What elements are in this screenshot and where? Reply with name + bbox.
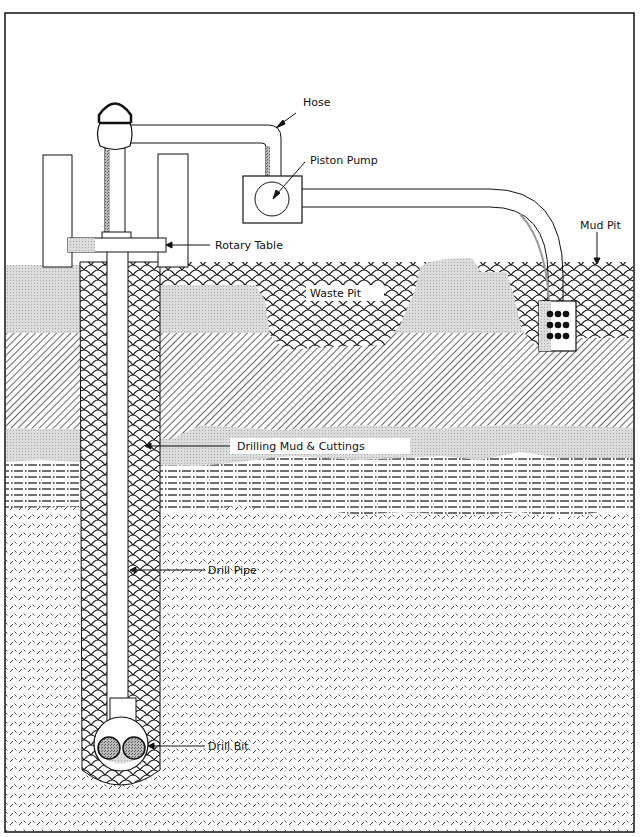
mud-surface-band <box>155 262 633 272</box>
label-drill-pipe: Drill Pipe <box>208 564 257 577</box>
label-mud-pit: Mud Pit <box>580 219 621 232</box>
label-waste-pit: Waste Pit <box>310 287 362 300</box>
label-drilling-mud: Drilling Mud & Cuttings <box>237 440 365 453</box>
label-piston-pump: Piston Pump <box>310 154 378 167</box>
label-drill-bit: Drill Bit <box>208 740 249 753</box>
label-rotary-table: Rotary Table <box>215 239 283 252</box>
swivel-body <box>98 123 133 150</box>
drill-bit <box>94 717 148 771</box>
label-hose: Hose <box>303 96 331 109</box>
drilling-diagram: Hose Piston Pump Rotary Table Mud Pit Wa… <box>0 0 640 837</box>
strainer-holes <box>547 311 570 340</box>
pump-piston <box>255 182 289 216</box>
drill-pipe <box>107 245 128 725</box>
